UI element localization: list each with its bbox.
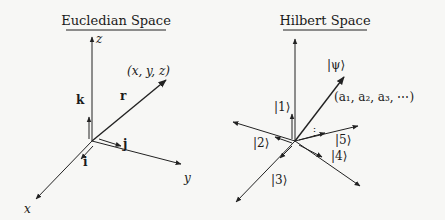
state-psi-label: |ψ⟩ bbox=[327, 58, 345, 72]
hilbert-space-panel: Hilbert Space |ψ⟩ (a₁, a₂, a₃, ⋯) |1⟩ |2… bbox=[233, 13, 414, 202]
more-basis-ellipsis: ⋮ bbox=[309, 126, 320, 139]
unit-vector-j-arrow bbox=[99, 139, 121, 146]
unit-vector-i-label: i bbox=[83, 155, 88, 169]
basis-vector-3-arrow bbox=[280, 146, 292, 158]
euclidean-space-panel: Eucledian Space z x y r (x, y, z) k j i bbox=[24, 13, 191, 216]
unit-vector-k-label: k bbox=[76, 93, 85, 107]
point-coordinates-label: (x, y, z) bbox=[127, 64, 170, 78]
euclidean-title: Eucledian Space bbox=[61, 13, 171, 28]
diagram-canvas: Eucledian Space z x y r (x, y, z) k j i … bbox=[0, 0, 445, 220]
coefficients-label: (a₁, a₂, a₃, ⋯) bbox=[334, 90, 414, 104]
y-axis bbox=[92, 141, 181, 164]
y-axis-label: y bbox=[183, 171, 191, 185]
unit-vector-j-label: j bbox=[122, 137, 127, 151]
position-vector-r bbox=[92, 80, 166, 141]
z-axis-label: z bbox=[95, 32, 103, 46]
vector-r-label: r bbox=[120, 89, 127, 103]
basis-vector-4-arrow bbox=[299, 145, 322, 157]
x-axis-label: x bbox=[24, 202, 31, 216]
basis-label-4: |4⟩ bbox=[331, 149, 347, 163]
basis-label-5: |5⟩ bbox=[335, 133, 351, 147]
basis-axis-3 bbox=[236, 141, 295, 202]
basis-label-1: |1⟩ bbox=[274, 100, 290, 114]
basis-label-2: |2⟩ bbox=[253, 136, 269, 150]
x-axis bbox=[36, 141, 92, 199]
basis-label-3: |3⟩ bbox=[271, 173, 287, 187]
hilbert-title: Hilbert Space bbox=[279, 13, 370, 28]
